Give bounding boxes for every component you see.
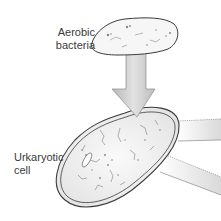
aerobic-bacterium [92, 18, 178, 55]
label-aerobic-bacteria: Aerobic bacteria [47, 26, 95, 52]
outgoing-band-upper [178, 119, 221, 141]
label-line: Urkaryotic [14, 151, 64, 164]
outgoing-band-lower [160, 155, 221, 195]
endosymbiosis-diagram [0, 0, 221, 221]
urkaryotic-cell [56, 107, 179, 207]
label-line: bacteria [47, 39, 95, 52]
label-line: Aerobic [47, 26, 95, 39]
label-line: cell [14, 164, 64, 177]
label-urkaryotic-cell: Urkaryotic cell [14, 151, 64, 177]
